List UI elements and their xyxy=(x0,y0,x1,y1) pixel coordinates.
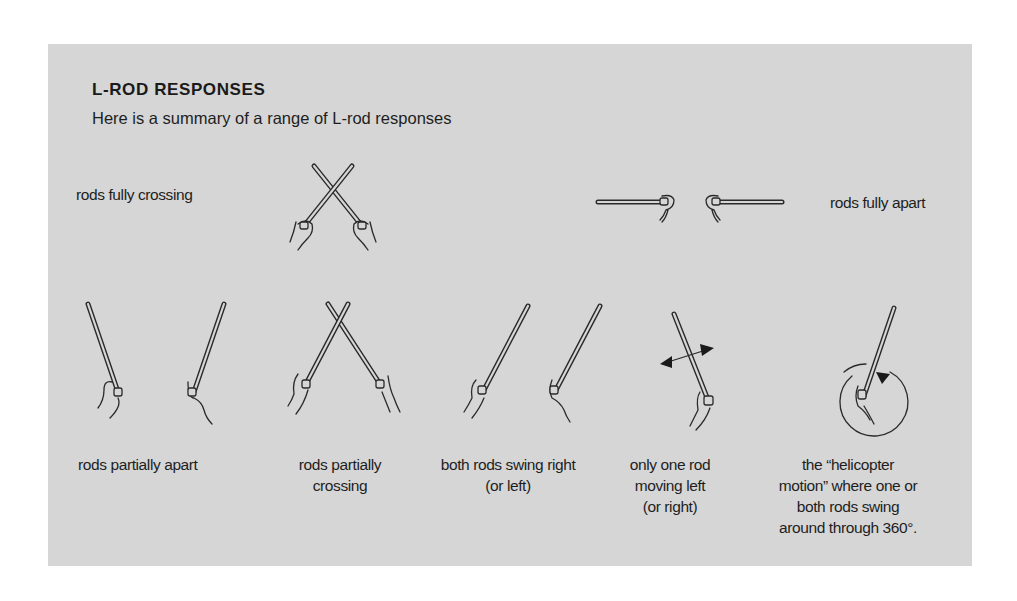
label-line: both rods swing right xyxy=(422,454,594,475)
label-line: (or left) xyxy=(422,475,594,496)
label-rods-fully-crossing: rods fully crossing xyxy=(76,184,192,205)
rods-fully-apart-illustration xyxy=(592,190,788,230)
rotate-arrow-icon xyxy=(876,372,890,384)
label-line: motion” where one or xyxy=(748,475,948,496)
rods-partially-apart-illustration xyxy=(78,294,238,430)
arrow-left-icon xyxy=(660,356,672,368)
l-rod-responses-panel: L-ROD RESPONSES Here is a summary of a r… xyxy=(48,44,972,566)
rods-fully-crossing-illustration xyxy=(284,162,384,254)
label-line: around through 360°. xyxy=(748,517,948,538)
label-one-rod-moving: only one rod moving left (or right) xyxy=(620,454,720,517)
label-rods-partially-crossing: rods partially crossing xyxy=(280,454,400,496)
label-line: only one rod xyxy=(620,454,720,475)
label-line: moving left xyxy=(620,475,720,496)
rods-partially-crossing-illustration xyxy=(284,294,408,430)
label-rods-partially-apart: rods partially apart xyxy=(78,454,198,475)
label-line: rods partially xyxy=(280,454,400,475)
rods-swing-right-illustration xyxy=(456,294,606,430)
arrow-right-icon xyxy=(700,344,714,356)
label-helicopter-motion: the “helicopter motion” where one or bot… xyxy=(748,454,948,538)
label-line: the “helicopter xyxy=(748,454,948,475)
label-rods-swing-right: both rods swing right (or left) xyxy=(422,454,594,496)
label-line: crossing xyxy=(280,475,400,496)
panel-subtitle: Here is a summary of a range of L-rod re… xyxy=(92,109,452,128)
helicopter-motion-illustration xyxy=(814,300,924,440)
label-rods-fully-apart: rods fully apart xyxy=(830,192,925,213)
one-rod-moving-illustration xyxy=(654,300,750,436)
label-line: (or right) xyxy=(620,496,720,517)
label-line: both rods swing xyxy=(748,496,948,517)
panel-title: L-ROD RESPONSES xyxy=(92,80,265,100)
